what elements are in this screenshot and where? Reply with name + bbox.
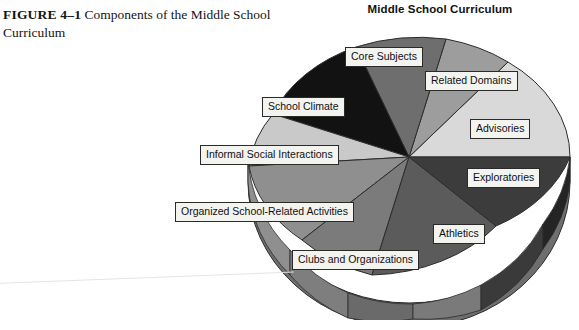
figure-number: FIGURE 4–1 xyxy=(3,7,81,22)
pie-label-informal-social-interactions[interactable]: Informal Social Interactions xyxy=(200,145,339,165)
figure-root: FIGURE 4–1 Components of the Middle Scho… xyxy=(0,0,579,330)
pie-side-seg-3 xyxy=(348,293,413,320)
pie-label-school-climate[interactable]: School Climate xyxy=(262,97,345,117)
pie-label-related-domains[interactable]: Related Domains xyxy=(425,71,518,91)
pie-label-clubs-and-organizations[interactable]: Clubs and Organizations xyxy=(292,250,419,270)
pie-label-organized-school-related-activities[interactable]: Organized School-Related Activities xyxy=(175,202,354,222)
pie-label-core-subjects[interactable]: Core Subjects xyxy=(345,47,423,67)
chart-title: Middle School Curriculum xyxy=(340,3,540,15)
pie-label-exploratories[interactable]: Exploratories xyxy=(467,168,540,188)
pie-label-athletics[interactable]: Athletics xyxy=(433,224,485,244)
pie-label-advisories[interactable]: Advisories xyxy=(470,119,530,139)
